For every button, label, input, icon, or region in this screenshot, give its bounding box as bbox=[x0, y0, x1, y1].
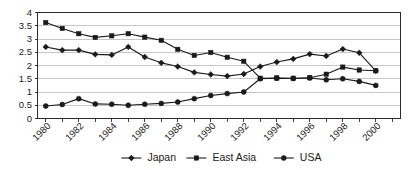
circle-data-point-marker bbox=[159, 101, 164, 106]
square-data-point-marker bbox=[77, 32, 81, 36]
x-axis-tick-label: 1986 bbox=[129, 120, 152, 143]
square-data-point-marker bbox=[44, 20, 48, 24]
square-data-point-marker bbox=[159, 38, 163, 42]
square-data-point-marker bbox=[93, 35, 97, 39]
square-data-point-marker bbox=[374, 69, 378, 73]
diamond-data-point-marker bbox=[125, 44, 131, 50]
y-axis-tick-label: 3.5 bbox=[19, 20, 32, 31]
circle-data-point-marker bbox=[109, 102, 114, 107]
legend-item-japan[interactable]: Japan bbox=[121, 151, 176, 163]
circle-data-point-marker bbox=[225, 91, 230, 96]
legend-label: East Asia bbox=[212, 151, 256, 163]
x-axis-tick-label: 1984 bbox=[96, 120, 119, 143]
y-axis-labels: 00.511.522.533.54 bbox=[19, 7, 32, 124]
diamond-data-point-marker bbox=[241, 71, 247, 77]
square-data-point-marker bbox=[341, 65, 345, 69]
chart-canvas: 00.511.522.533.54 1980198219841986198819… bbox=[0, 0, 411, 170]
square-data-point-marker bbox=[60, 26, 64, 30]
diamond-data-point-marker bbox=[109, 52, 115, 58]
line-chart: 00.511.522.533.54 1980198219841986198819… bbox=[0, 0, 411, 170]
x-axis-tick-label: 1982 bbox=[63, 120, 86, 143]
y-axis-tick-label: 0 bbox=[27, 113, 32, 124]
square-data-point-marker bbox=[192, 53, 196, 57]
x-axis-tick-label: 1980 bbox=[30, 120, 53, 143]
circle-data-point-marker bbox=[76, 96, 81, 101]
circle-data-point-marker bbox=[373, 83, 378, 88]
square-data-point-marker bbox=[126, 32, 130, 36]
circle-data-point-marker bbox=[142, 102, 147, 107]
square-data-point-marker bbox=[357, 68, 361, 72]
series-lines bbox=[43, 20, 379, 108]
x-axis-tick-label: 1988 bbox=[162, 120, 185, 143]
x-axis-tick-label: 1992 bbox=[228, 120, 251, 143]
square-data-point-marker bbox=[194, 156, 198, 160]
diamond-data-point-marker bbox=[323, 53, 329, 59]
circle-data-point-marker bbox=[192, 96, 197, 101]
diamond-data-point-marker bbox=[290, 56, 296, 62]
y-axis-tick-label: 1 bbox=[27, 86, 32, 97]
legend-label: USA bbox=[300, 151, 322, 163]
square-data-point-marker bbox=[143, 35, 147, 39]
square-data-point-marker bbox=[176, 47, 180, 51]
legend-label: Japan bbox=[147, 151, 176, 163]
circle-data-point-marker bbox=[274, 76, 279, 81]
diamond-data-point-marker bbox=[43, 44, 49, 50]
diamond-data-point-marker bbox=[142, 54, 148, 60]
x-axis-tick-label: 2000 bbox=[360, 120, 383, 143]
circle-data-point-marker bbox=[208, 93, 213, 98]
y-axis-tick-label: 0.5 bbox=[19, 99, 32, 110]
circle-data-point-marker bbox=[60, 102, 65, 107]
circle-data-point-marker bbox=[291, 76, 296, 81]
circle-data-point-marker bbox=[175, 100, 180, 105]
diamond-data-point-marker bbox=[129, 155, 135, 161]
x-axis-tick-label: 1994 bbox=[261, 120, 284, 143]
diamond-data-point-marker bbox=[158, 60, 164, 66]
circle-data-point-marker bbox=[241, 90, 246, 95]
diamond-data-point-marker bbox=[340, 46, 346, 52]
square-data-point-marker bbox=[324, 72, 328, 76]
y-axis-tick-label: 1.5 bbox=[19, 73, 32, 84]
grid-lines bbox=[38, 13, 401, 106]
x-axis-labels: 1980198219841986198819901992199419961998… bbox=[30, 120, 383, 143]
diamond-data-point-marker bbox=[274, 59, 280, 65]
circle-data-point-marker bbox=[340, 76, 345, 81]
y-axis-tick-label: 2 bbox=[27, 60, 32, 71]
diamond-data-point-marker bbox=[191, 69, 197, 75]
square-data-point-marker bbox=[209, 50, 213, 54]
circle-data-point-marker bbox=[258, 76, 263, 81]
legend-item-usa[interactable]: USA bbox=[274, 151, 322, 163]
circle-data-point-marker bbox=[93, 101, 98, 106]
circle-data-point-marker bbox=[281, 156, 286, 161]
chart-legend: JapanEast AsiaUSA bbox=[121, 151, 321, 163]
legend-item-east-asia[interactable]: East Asia bbox=[186, 151, 256, 163]
diamond-data-point-marker bbox=[257, 64, 263, 70]
circle-data-point-marker bbox=[126, 103, 131, 108]
x-axis-tick-label: 1996 bbox=[294, 120, 317, 143]
circle-data-point-marker bbox=[307, 75, 312, 80]
circle-data-point-marker bbox=[357, 79, 362, 84]
diamond-data-point-marker bbox=[208, 72, 214, 78]
circle-data-point-marker bbox=[43, 104, 48, 109]
square-data-point-marker bbox=[225, 55, 229, 59]
y-axis-tick-label: 3 bbox=[27, 33, 32, 44]
x-axis-tick-label: 1998 bbox=[327, 120, 350, 143]
square-data-point-marker bbox=[242, 59, 246, 63]
y-axis-tick-label: 4 bbox=[27, 7, 32, 18]
x-axis-tick-label: 1990 bbox=[195, 120, 218, 143]
circle-data-point-marker bbox=[324, 77, 329, 82]
y-axis-tick-label: 2.5 bbox=[19, 46, 32, 57]
diamond-data-point-marker bbox=[175, 64, 181, 70]
square-data-point-marker bbox=[110, 34, 114, 38]
diamond-data-point-marker bbox=[224, 73, 230, 79]
